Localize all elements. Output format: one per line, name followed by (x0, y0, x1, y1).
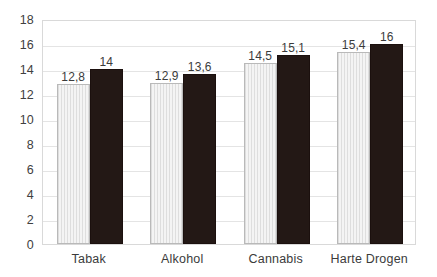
y-axis-tick-label: 2 (27, 214, 34, 227)
bar-group: 12,913,6 (150, 21, 216, 244)
bar-value-label: 12,8 (61, 71, 85, 83)
category-label: Cannabis (249, 253, 303, 266)
y-axis-tick-label: 0 (27, 239, 34, 252)
y-axis-tick-label: 10 (20, 114, 34, 127)
bar-value-label: 15,4 (342, 39, 366, 51)
bar: 15,4 (337, 52, 370, 245)
bar-chart: 024681012141618 12,81412,913,614,515,115… (0, 0, 437, 277)
y-axis: 024681012141618 (0, 0, 42, 277)
bar-groups: 12,81412,913,614,515,115,416 (43, 21, 415, 244)
bar-group: 15,416 (337, 21, 403, 244)
plot-area: 12,81412,913,614,515,115,416 (42, 20, 416, 245)
bar: 15,1 (277, 55, 310, 244)
bar-value-label: 14,5 (248, 50, 272, 62)
category-label: Tabak (72, 253, 106, 266)
bar-value-label: 14 (99, 56, 113, 68)
y-axis-tick-label: 6 (27, 164, 34, 177)
x-axis-category-labels: TabakAlkoholCannabisHarte Drogen (42, 246, 416, 277)
bar: 12,8 (57, 84, 90, 244)
y-axis-tick-label: 4 (27, 189, 34, 202)
bar-value-label: 16 (380, 31, 394, 43)
bar: 14,5 (244, 63, 277, 244)
bar: 16 (370, 44, 403, 244)
y-axis-tick-label: 14 (20, 64, 34, 77)
y-axis-tick-label: 12 (20, 89, 34, 102)
bar: 12,9 (150, 83, 183, 244)
category-label: Harte Drogen (331, 253, 408, 266)
bar-value-label: 15,1 (281, 42, 305, 54)
y-axis-tick-label: 18 (20, 14, 34, 27)
category-label: Alkohol (161, 253, 203, 266)
y-axis-tick-label: 16 (20, 39, 34, 52)
bar: 13,6 (183, 74, 216, 244)
bar-value-label: 12,9 (155, 70, 179, 82)
bar-group: 14,515,1 (244, 21, 310, 244)
bar: 14 (90, 69, 123, 244)
y-axis-tick-label: 8 (27, 139, 34, 152)
bar-value-label: 13,6 (188, 61, 212, 73)
bar-group: 12,814 (57, 21, 123, 244)
